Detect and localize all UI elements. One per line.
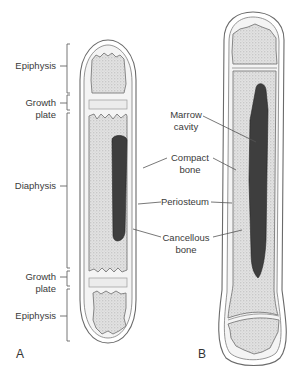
label-diaphysis: Diaphysis — [15, 180, 56, 191]
long-bone-diagram: Epiphysis Growth plate Diaphysis Growth … — [0, 0, 306, 379]
bone-b — [219, 12, 287, 366]
label-epiphysis-bottom: Epiphysis — [15, 310, 56, 321]
panel-label-b: B — [198, 347, 206, 361]
bracket-epiphysis-top — [60, 44, 70, 93]
label-cancellous-bone-1: Cancellous — [163, 232, 210, 243]
label-growth-plate-top-1: Growth — [25, 97, 56, 108]
label-marrow-cavity-2: cavity — [174, 121, 199, 132]
bracket-growth-plate-bottom — [60, 271, 70, 286]
leader-periosteum-a — [138, 202, 161, 204]
label-growth-plate-bottom-2: plate — [35, 283, 56, 294]
label-epiphysis-top: Epiphysis — [15, 60, 56, 71]
left-brackets — [60, 44, 70, 341]
bone-a-growth-plate-top — [89, 100, 127, 109]
bracket-epiphysis-bottom — [60, 289, 70, 341]
label-periosteum: Periosteum — [161, 196, 209, 207]
label-compact-bone-2: bone — [179, 164, 200, 175]
leader-cancellous-bone-a — [133, 229, 161, 237]
bone-a — [80, 40, 136, 343]
bracket-diaphysis — [60, 113, 70, 268]
label-growth-plate-top-2: plate — [35, 109, 56, 120]
label-marrow-cavity-1: Marrow — [170, 109, 202, 120]
bone-a-growth-plate-bottom — [89, 278, 127, 287]
bone-b-marrow-cavity — [249, 84, 268, 278]
leader-compact-bone-a — [143, 158, 167, 168]
panel-label-a: A — [16, 347, 24, 361]
label-growth-plate-bottom-1: Growth — [25, 271, 56, 282]
bone-a-marrow-cavity — [112, 136, 127, 241]
label-compact-bone-1: Compact — [171, 152, 209, 163]
bone-a-epiphysis-bottom — [93, 291, 126, 334]
bone-b-epiphysis-top — [232, 24, 277, 64]
bracket-growth-plate-top — [60, 95, 70, 110]
bone-a-epiphysis-top — [91, 53, 126, 93]
label-cancellous-bone-2: bone — [175, 244, 196, 255]
